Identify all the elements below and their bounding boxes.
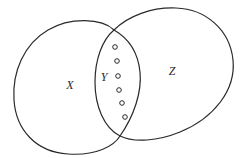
set-z-outline [95, 8, 233, 140]
venn-canvas [0, 0, 247, 158]
intersection-y-label: Y [101, 71, 108, 83]
member-dot [115, 59, 120, 64]
member-dot [116, 74, 121, 79]
intersection-members [113, 45, 128, 120]
set-z-label: Z [169, 65, 176, 77]
member-dot [120, 101, 125, 106]
member-dot [113, 45, 118, 50]
member-dot [117, 88, 122, 93]
member-dot [123, 115, 128, 120]
set-x-outline [14, 21, 141, 155]
set-x-label: X [66, 79, 73, 91]
venn-diagram: X Y Z [0, 0, 247, 158]
